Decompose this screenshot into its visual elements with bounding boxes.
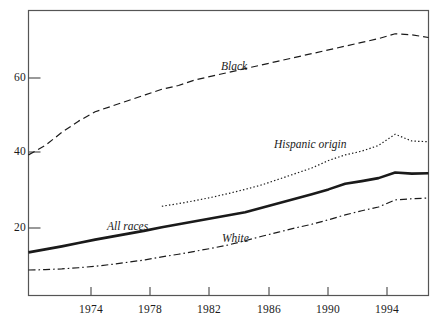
y-tick-label-20: 20 xyxy=(0,221,26,233)
x-axis-ticks xyxy=(91,287,387,296)
y-tick-label-60: 60 xyxy=(0,71,26,83)
x-tick-label-1978: 1978 xyxy=(128,303,172,315)
plot-frame xyxy=(29,11,429,296)
y-axis-ticks xyxy=(29,78,41,228)
series-label-black: Black xyxy=(221,60,247,72)
x-tick-label-1994: 1994 xyxy=(365,303,409,315)
x-tick-label-1986: 1986 xyxy=(247,303,291,315)
x-tick-label-1982: 1982 xyxy=(187,303,231,315)
chart-canvas xyxy=(0,0,439,325)
series-label-white: White xyxy=(222,232,249,244)
y-tick-label-40: 40 xyxy=(0,145,26,157)
plot-border xyxy=(29,11,429,296)
x-tick-label-1974: 1974 xyxy=(69,303,113,315)
series-label-all-races: All races xyxy=(107,220,148,232)
x-tick-label-1990: 1990 xyxy=(306,303,350,315)
series-label-hispanic: Hispanic origin xyxy=(274,138,347,150)
line-chart: 60 40 20 1974 1978 1982 1986 1990 1994 B… xyxy=(0,0,439,325)
series-path-black xyxy=(29,34,429,155)
